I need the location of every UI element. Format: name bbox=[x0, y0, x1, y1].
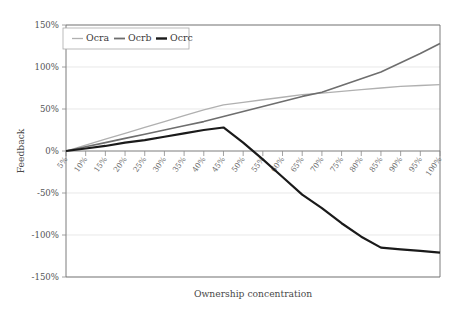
x-tick-label: 60% bbox=[269, 155, 286, 174]
y-tick-label: 100% bbox=[34, 62, 59, 72]
x-tick-label: 40% bbox=[190, 155, 207, 174]
feedback-line-chart: 150%100%50%0%-50%-100%-150% 5%10%15%20%2… bbox=[0, 0, 462, 311]
x-tick-label: 50% bbox=[230, 155, 247, 174]
x-tick-label: 90% bbox=[387, 155, 404, 174]
chart-legend: OcraOcrbOcrc bbox=[63, 28, 193, 49]
y-tick-label: 0% bbox=[45, 146, 59, 156]
x-tick-label: 15% bbox=[92, 155, 109, 174]
x-tick-label: 65% bbox=[289, 155, 306, 174]
series-lines bbox=[66, 43, 440, 252]
x-tick-label: 5% bbox=[55, 155, 69, 170]
y-tick-marks bbox=[62, 25, 66, 277]
y-tick-label: -100% bbox=[32, 230, 59, 240]
y-tick-label: -150% bbox=[32, 272, 59, 282]
x-tick-labels: 5%10%15%20%25%30%35%40%45%50%55%60%65%70… bbox=[55, 155, 443, 178]
y-tick-label: 50% bbox=[40, 104, 59, 114]
x-tick-label: 100% bbox=[424, 155, 444, 178]
x-axis-title: Ownership concentration bbox=[194, 288, 312, 299]
x-tick-label: 10% bbox=[72, 155, 89, 174]
series-line-ocra bbox=[66, 85, 440, 151]
y-tick-labels: 150%100%50%0%-50%-100%-150% bbox=[32, 20, 59, 282]
x-tick-label: 75% bbox=[328, 155, 345, 174]
y-tick-label: -50% bbox=[37, 188, 59, 198]
series-line-ocrc bbox=[66, 127, 440, 252]
x-tick-label: 25% bbox=[131, 155, 148, 174]
x-tick-label: 80% bbox=[348, 155, 365, 174]
legend-label-ocrb: Ocrb bbox=[128, 32, 151, 43]
x-tick-label: 55% bbox=[249, 155, 266, 174]
x-tick-label: 70% bbox=[308, 155, 325, 174]
x-tick-label: 95% bbox=[407, 155, 424, 174]
x-tick-label: 35% bbox=[171, 155, 188, 174]
x-tick-label: 45% bbox=[210, 155, 227, 174]
legend-label-ocra: Ocra bbox=[86, 32, 109, 43]
x-tick-label: 20% bbox=[112, 155, 129, 174]
y-tick-label: 150% bbox=[34, 20, 59, 30]
y-axis-title: Feedback bbox=[15, 128, 26, 173]
x-tick-label: 85% bbox=[368, 155, 385, 174]
legend-label-ocrc: Ocrc bbox=[170, 32, 193, 43]
x-tick-label: 30% bbox=[151, 155, 168, 174]
chart-container: 150%100%50%0%-50%-100%-150% 5%10%15%20%2… bbox=[0, 0, 462, 311]
